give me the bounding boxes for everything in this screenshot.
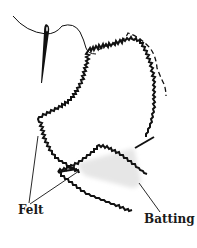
thread	[13, 16, 96, 54]
batting-label: Batting	[144, 213, 195, 225]
felt-label: Felt	[18, 204, 44, 216]
batting-leader-line	[139, 183, 160, 212]
top-felt-piece	[38, 37, 155, 173]
felt-leader-line	[29, 136, 38, 203]
felt-edge-mark	[135, 137, 154, 148]
needle-icon	[41, 24, 49, 83]
felt-sewing-diagram: Felt Batting	[0, 0, 197, 248]
felt-leader-line	[30, 171, 79, 204]
